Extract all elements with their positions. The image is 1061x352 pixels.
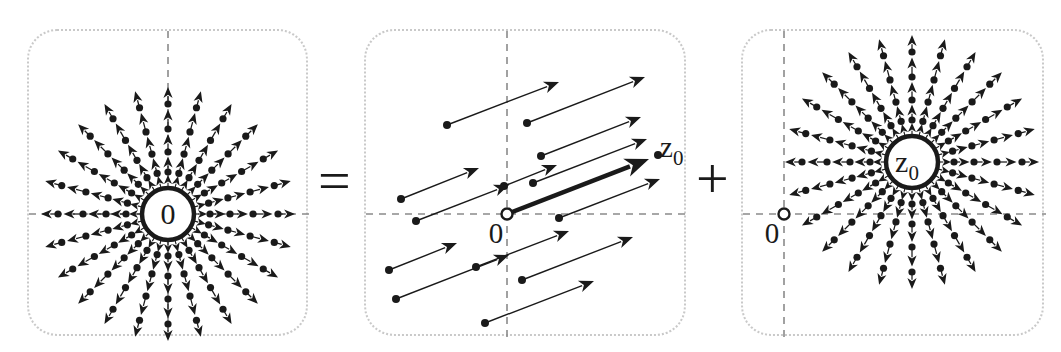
field-base-dot <box>185 247 192 254</box>
origin-label: 0 <box>489 217 504 249</box>
field-base-dot <box>201 189 208 196</box>
field-base-dot <box>898 118 905 125</box>
field-arrow-head <box>802 98 814 107</box>
field-arrow-head <box>808 157 819 166</box>
axes-group <box>29 31 310 338</box>
field-base-dot <box>247 232 254 239</box>
field-arrow-head <box>266 268 278 277</box>
field-arrow-shaft <box>228 274 235 281</box>
field-arrow-head <box>198 271 207 283</box>
field-base-dot <box>224 194 231 201</box>
field-base-dot <box>271 182 278 189</box>
field-base-dot <box>937 265 944 272</box>
field-base-dot <box>802 130 809 137</box>
field-arrow-head <box>907 82 916 93</box>
field-arrow-head <box>848 52 857 64</box>
field-arrow-shaft <box>485 286 582 323</box>
field-arrow-shaft <box>396 260 497 299</box>
field-base-dot <box>868 148 875 155</box>
hub-arrow-head <box>878 143 888 151</box>
field-base-dot <box>880 265 887 272</box>
hub-arrow-head <box>878 174 888 182</box>
field-arrow-head <box>822 205 834 214</box>
field-base-dot <box>924 99 931 106</box>
field-base-dot <box>82 232 89 239</box>
field-arrow-head <box>78 162 90 171</box>
hub-arrow-head <box>936 174 946 182</box>
field-base-dot <box>826 180 833 187</box>
uniform-field-diagram: z00 <box>366 31 688 338</box>
field-base-dot <box>154 251 161 258</box>
z0-label-subscript: 0 <box>673 146 684 170</box>
field-base-dot <box>991 136 998 143</box>
field-arrow-head <box>99 244 111 253</box>
field-base-dot <box>154 170 161 177</box>
field-arrow-shaft <box>228 147 235 154</box>
hub-arrow-head <box>180 238 188 248</box>
field-base-dot <box>991 180 998 187</box>
field-arrow-head <box>104 104 113 116</box>
field-arrow-head <box>222 104 231 116</box>
field-arrow-head <box>128 145 137 157</box>
origin-label: 0 <box>765 217 780 249</box>
field-base-dot <box>887 195 894 202</box>
field-arrow-head <box>942 219 951 231</box>
field-arrow-head <box>116 293 125 305</box>
field-arrow-head <box>991 205 1003 214</box>
field-arrow-head <box>955 241 964 253</box>
hub-arrow-head <box>149 180 157 190</box>
field-arrow-head <box>832 157 843 166</box>
field-arrow-head <box>966 52 975 64</box>
field-base-dot <box>124 221 131 228</box>
field-arrow-head <box>822 110 834 119</box>
field-arrow-head <box>222 312 231 324</box>
field-arrow-head <box>942 93 951 105</box>
field-arrow-head <box>1006 157 1017 166</box>
field-arrow-head <box>198 145 207 157</box>
hub-arrow-head <box>893 186 901 196</box>
field-base-dot <box>868 169 875 176</box>
field-arrow-head <box>58 268 70 277</box>
vector-field-group <box>385 77 660 327</box>
field-arrow-shaft <box>845 95 852 102</box>
field-arrow-head <box>955 72 964 84</box>
equals-operator: = <box>318 152 351 210</box>
panel-radial-field-at-z0: z00 <box>741 29 1044 336</box>
field-arrow-head <box>1010 98 1022 107</box>
field-arrow-shaft <box>101 274 108 281</box>
field-arrow-head <box>58 150 70 159</box>
field-arrow-head <box>966 260 975 272</box>
field-base-dot <box>924 218 931 225</box>
field-base-dot <box>949 169 956 176</box>
field-arrow-head <box>78 257 90 266</box>
hub-arrow-head <box>149 238 157 248</box>
field-base-dot <box>148 270 155 277</box>
hub-arrow-head <box>924 128 932 138</box>
field-arrow-head <box>843 192 855 201</box>
origin-marker-group: 0 <box>489 209 513 250</box>
field-arrow-head <box>211 124 220 136</box>
z0-label: z0 <box>660 131 683 170</box>
field-base-dot <box>122 137 129 144</box>
field-arrow-head <box>860 241 869 253</box>
plus-operator: + <box>696 150 729 208</box>
field-arrow-shaft <box>101 147 108 154</box>
field-base-dot <box>898 199 905 206</box>
field-base-dot <box>224 226 231 233</box>
field-base-dot <box>175 251 182 258</box>
vector-field-group: 0 <box>41 87 295 341</box>
field-arrow-head <box>872 219 881 231</box>
field-arrow-head <box>266 150 278 159</box>
field-arrow-head <box>104 312 113 324</box>
field-base-dot <box>205 221 212 228</box>
field-base-dot <box>919 118 926 125</box>
field-base-dot <box>802 187 809 194</box>
hub-arrow-head <box>908 123 916 132</box>
radial-field-diagram-z0: z00 <box>743 31 1046 338</box>
field-arrow-head <box>860 72 869 84</box>
hub-arrow-head <box>936 143 946 151</box>
field-base-dot <box>180 270 187 277</box>
field-base-dot <box>207 137 214 144</box>
field-base-dot <box>892 218 899 225</box>
hub-arrow-head <box>134 226 144 234</box>
